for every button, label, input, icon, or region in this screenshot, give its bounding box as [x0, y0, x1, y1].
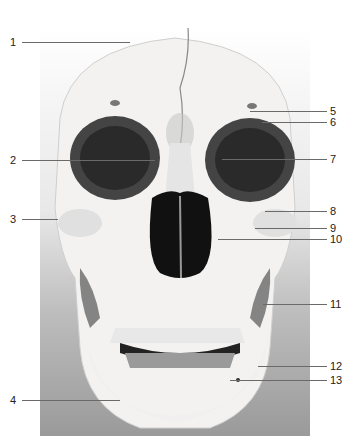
label-2: 2 [10, 155, 16, 166]
leader-line-10 [218, 239, 327, 240]
label-7: 7 [330, 154, 336, 165]
label-11: 11 [330, 299, 341, 310]
leader-line-1 [22, 42, 130, 43]
leader-line-2 [22, 160, 155, 161]
label-10: 10 [330, 234, 342, 245]
leader-line-6 [262, 122, 327, 123]
skull-photograph [40, 28, 310, 436]
label-3: 3 [10, 214, 16, 225]
leader-line-12 [258, 366, 327, 367]
leader-line-3 [22, 219, 58, 220]
leader-line-9 [255, 228, 327, 229]
leader-line-8 [265, 211, 327, 212]
leader-line-4 [22, 400, 120, 401]
leader-line-13 [230, 380, 327, 381]
label-6: 6 [330, 117, 336, 128]
label-12: 12 [330, 361, 342, 372]
leader-line-7 [222, 159, 327, 160]
leader-line-11 [263, 304, 327, 305]
label-8: 8 [330, 206, 336, 217]
label-1: 1 [10, 37, 16, 48]
skull-illustration [40, 28, 310, 436]
label-13: 13 [330, 375, 342, 386]
leader-line-5 [250, 111, 327, 112]
label-4: 4 [10, 395, 16, 406]
